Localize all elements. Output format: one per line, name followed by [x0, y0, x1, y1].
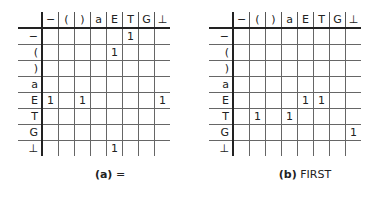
matrix-cell	[330, 109, 346, 125]
matrix-cell	[139, 77, 155, 93]
table-row: T11	[209, 109, 361, 125]
matrix-cell	[155, 28, 171, 45]
matrix-cell	[139, 45, 155, 61]
row-header: T	[209, 109, 233, 125]
matrix-cell: 1	[155, 93, 171, 109]
column-header: (	[59, 12, 75, 28]
row-header: (	[18, 45, 42, 61]
matrix-cell	[123, 61, 139, 77]
matrix-cell	[107, 77, 123, 93]
row-header: T	[18, 109, 42, 125]
matrix-cell	[233, 125, 250, 141]
matrix-cell	[250, 77, 266, 93]
column-header: T	[314, 12, 330, 28]
column-header: E	[107, 12, 123, 28]
row-header: E	[209, 93, 233, 109]
matrix-cell	[59, 77, 75, 93]
caption-text: =	[116, 168, 125, 181]
matrix-cell	[91, 45, 107, 61]
column-header: (	[250, 12, 266, 28]
corner-cell	[18, 12, 42, 28]
table-row: (	[209, 45, 361, 61]
matrix-cell	[75, 28, 91, 45]
table-row: E111	[18, 93, 170, 109]
table-row: G	[18, 125, 170, 141]
matrix-cell: 1	[250, 109, 266, 125]
matrix-cell	[59, 93, 75, 109]
column-header: −	[233, 12, 250, 28]
table-row: G1	[209, 125, 361, 141]
matrix-cell	[346, 45, 362, 61]
matrix-cell	[233, 109, 250, 125]
matrix-cell	[314, 61, 330, 77]
row-header: −	[18, 28, 42, 45]
matrix-table: −()aETG⊥−1(1)aE111TG⊥1	[18, 12, 170, 156]
matrix-cell	[75, 45, 91, 61]
matrix-cell	[155, 125, 171, 141]
column-header: )	[75, 12, 91, 28]
matrix-cell	[107, 93, 123, 109]
corner-cell	[209, 12, 233, 28]
matrix-cell	[314, 28, 330, 45]
caption-text: FIRST	[300, 168, 331, 181]
matrix-cell: 1	[42, 93, 59, 109]
column-header: )	[266, 12, 282, 28]
matrix-cell	[282, 125, 298, 141]
matrix-cell	[330, 77, 346, 93]
matrix-cell: 1	[107, 141, 123, 157]
row-header: ⊥	[209, 141, 233, 157]
matrix-cell	[266, 61, 282, 77]
matrix-cell	[59, 28, 75, 45]
matrix-cell	[42, 77, 59, 93]
matrix-cell	[42, 28, 59, 45]
matrix-cell	[139, 109, 155, 125]
matrix-cell	[266, 77, 282, 93]
matrix-cell	[314, 141, 330, 157]
matrix-cell	[250, 61, 266, 77]
matrix-table: −()aETG⊥−()aE11T11G1⊥	[209, 12, 361, 156]
matrix-cell	[314, 45, 330, 61]
matrix-cell	[91, 109, 107, 125]
table-row: a	[18, 77, 170, 93]
column-header: E	[298, 12, 314, 28]
matrix-cell	[75, 109, 91, 125]
column-header: G	[330, 12, 346, 28]
matrix-cell	[314, 77, 330, 93]
caption-label: (b)	[279, 168, 297, 181]
matrix-cell: 1	[107, 45, 123, 61]
matrix-cell	[314, 125, 330, 141]
matrix-cell	[155, 109, 171, 125]
table-row: )	[18, 61, 170, 77]
matrix-cell	[155, 77, 171, 93]
matrix-cell	[250, 45, 266, 61]
matrix-cell	[330, 125, 346, 141]
matrix-cell: 1	[346, 125, 362, 141]
row-header: )	[209, 61, 233, 77]
matrix-cell	[233, 45, 250, 61]
matrix-cell	[42, 141, 59, 157]
matrix-cell	[233, 77, 250, 93]
matrix-cell	[107, 109, 123, 125]
matrix-cell	[91, 125, 107, 141]
matrix-cell	[42, 45, 59, 61]
matrix-cell	[123, 93, 139, 109]
matrix-cell	[298, 77, 314, 93]
matrix-cell	[233, 28, 250, 45]
matrix-cell	[42, 109, 59, 125]
matrix-cell	[91, 61, 107, 77]
matrix-cell	[59, 61, 75, 77]
matrix-cell	[59, 141, 75, 157]
matrix-cell	[330, 45, 346, 61]
row-header: −	[209, 28, 233, 45]
matrix-cell	[91, 141, 107, 157]
matrix-cell	[330, 141, 346, 157]
matrix-cell	[59, 125, 75, 141]
matrix-cell	[298, 28, 314, 45]
matrix-cell	[330, 93, 346, 109]
matrix-cell	[233, 93, 250, 109]
matrix-cell	[59, 109, 75, 125]
matrix-cell	[139, 125, 155, 141]
matrix-cell	[266, 93, 282, 109]
matrix-cell	[123, 109, 139, 125]
matrix-cell	[139, 93, 155, 109]
